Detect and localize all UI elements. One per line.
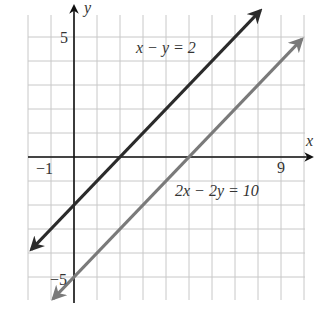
line2-equation-label: 2x − 2y = 10	[175, 182, 259, 200]
line1-equation-label: x − y = 2	[135, 39, 196, 57]
tick-label-x-9: 9	[277, 159, 285, 176]
y-axis-label: y	[82, 0, 92, 17]
x-axis-label: x	[305, 132, 313, 149]
coordinate-plane: y x 5 −1 9 −5 x − y = 2 2x − 2y = 10	[0, 0, 336, 310]
line-2x-minus-2y-eq-10	[53, 39, 301, 298]
tick-label-y-5: 5	[60, 29, 68, 46]
tick-label-y-neg5: −5	[50, 271, 67, 288]
tick-label-x-neg1: −1	[36, 160, 53, 177]
